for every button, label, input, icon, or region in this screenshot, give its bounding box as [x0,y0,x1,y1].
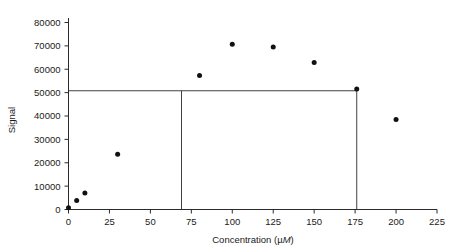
scatter-plot-figure: 0100002000030000400005000060000700008000… [0,0,470,252]
x-tick-label: 175 [347,216,363,227]
data-point [82,190,87,195]
y-tick-label: 50000 [34,87,60,98]
figure-background [0,0,470,252]
x-tick-label: 225 [429,216,445,227]
y-tick-label: 80000 [34,17,60,28]
y-tick-label: 40000 [34,110,60,121]
y-tick-label: 60000 [34,64,60,75]
x-tick-label: 125 [265,216,281,227]
data-point [394,117,399,122]
y-tick-label: 0 [55,204,60,215]
x-tick-label: 75 [186,216,197,227]
y-tick-label: 30000 [34,134,60,145]
data-point [230,42,235,47]
plot-canvas: 0100002000030000400005000060000700008000… [0,0,470,252]
data-point [354,87,359,92]
data-point [74,198,79,203]
x-tick-label: 50 [145,216,156,227]
y-axis-title: Signal [6,107,17,133]
data-point [66,205,71,210]
x-tick-label: 0 [66,216,71,227]
data-point [312,60,317,65]
x-tick-label: 100 [224,216,240,227]
y-tick-label: 10000 [34,181,60,192]
x-axis-title: Concentration (µM) [212,234,294,245]
y-axis-ticks: 0100002000030000400005000060000700008000… [34,17,60,215]
data-point [197,73,202,78]
x-tick-label: 200 [388,216,404,227]
data-point [115,152,120,157]
x-tick-label: 150 [306,216,322,227]
y-tick-label: 70000 [34,40,60,51]
data-point [271,45,276,50]
y-tick-label: 20000 [34,157,60,168]
x-tick-label: 25 [104,216,115,227]
